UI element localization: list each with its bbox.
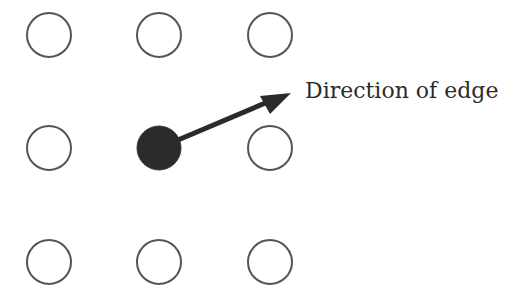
center-node-filled bbox=[137, 126, 181, 170]
direction-label: Direction of edge bbox=[305, 78, 498, 103]
pixel-grid-diagram bbox=[0, 0, 525, 308]
direction-arrow bbox=[178, 93, 291, 140]
node-middle-left bbox=[27, 126, 71, 170]
arrow-head-icon bbox=[260, 93, 291, 114]
arrow-shaft bbox=[178, 101, 270, 140]
node-bottom-center bbox=[137, 240, 181, 284]
node-bottom-right bbox=[248, 240, 292, 284]
node-middle-right bbox=[248, 126, 292, 170]
node-top-right bbox=[248, 13, 292, 57]
node-top-center bbox=[137, 13, 181, 57]
node-bottom-left bbox=[27, 240, 71, 284]
node-top-left bbox=[27, 13, 71, 57]
